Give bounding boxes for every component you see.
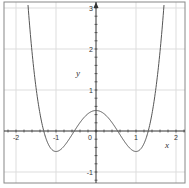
- y-tick-label: 3: [89, 5, 93, 12]
- y-tick-label: 2: [89, 46, 93, 53]
- y-tick-label: 1: [89, 87, 93, 94]
- x-tick-label: -2: [13, 134, 19, 141]
- x-tick-labels: -2-1012: [13, 134, 178, 141]
- y-axis-label: y: [75, 68, 80, 78]
- x-tick-label: 2: [174, 134, 178, 141]
- x-tick-label: -1: [53, 134, 59, 141]
- y-tick-label: -1: [87, 169, 93, 176]
- x-tick-label: 0: [88, 134, 92, 141]
- axes: [4, 2, 185, 183]
- function-plot: -2-1012 -1123 x y: [0, 0, 189, 188]
- x-axis-label: x: [164, 140, 169, 150]
- x-tick-label: 1: [134, 134, 138, 141]
- y-axis-arrow-icon: [94, 2, 99, 8]
